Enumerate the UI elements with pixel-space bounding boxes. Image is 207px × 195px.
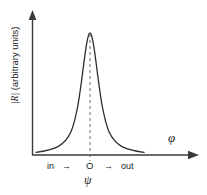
out-direction-label: out bbox=[121, 162, 134, 171]
y-axis-label-units: (arbitrary units) bbox=[9, 26, 20, 93]
x-axis-label: φ bbox=[168, 131, 175, 144]
x-axis-arrowhead bbox=[188, 151, 199, 159]
out-arrow-icon: → bbox=[104, 162, 113, 171]
psi-label: ψ bbox=[84, 174, 91, 186]
y-axis-arrowhead bbox=[29, 10, 37, 20]
y-axis-label-symbol: |R| bbox=[10, 93, 20, 104]
origin-label: O bbox=[86, 161, 93, 171]
in-arrow-icon: → bbox=[62, 162, 71, 171]
resonance-curve bbox=[36, 33, 144, 152]
in-direction-label: in bbox=[47, 162, 54, 171]
resonance-curve-figure: |R| (arbitrary units) φ O ψ in → → out bbox=[0, 0, 207, 195]
y-axis-label: |R| (arbitrary units) bbox=[10, 5, 21, 125]
